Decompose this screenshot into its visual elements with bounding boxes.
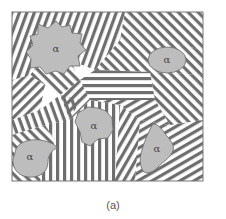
microstructure-diagram: α α α α α	[0, 0, 226, 219]
alpha-label: α	[154, 143, 161, 154]
alpha-label: α	[164, 54, 171, 65]
alpha-label: α	[27, 151, 34, 162]
alpha-label: α	[91, 120, 98, 131]
alpha-label: α	[53, 43, 60, 54]
figure-caption: (a)	[0, 199, 226, 211]
